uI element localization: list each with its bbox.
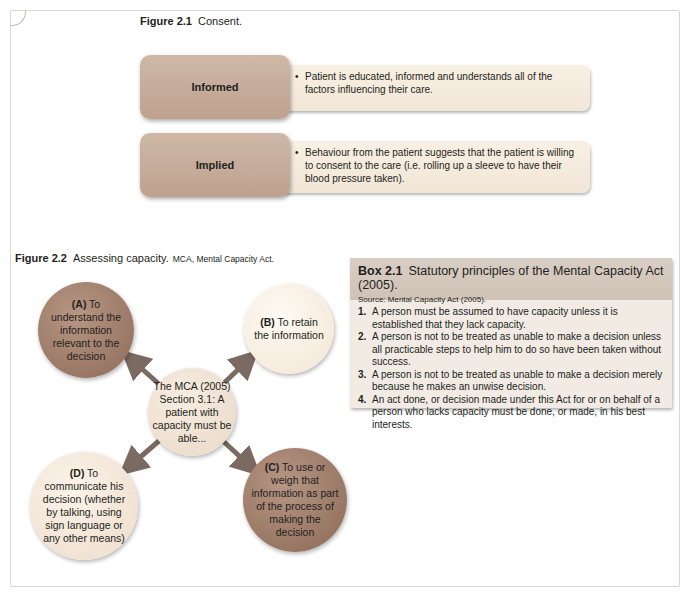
item-text: A person must be assumed to have capacit…	[372, 306, 664, 331]
box-2-1: Box 2.1Statutory principles of the Menta…	[350, 258, 672, 408]
list-item: 1.A person must be assumed to have capac…	[358, 306, 664, 331]
item-number: 2.	[358, 331, 372, 369]
node-letter: (D)	[70, 467, 85, 479]
item-text: A person is not to be treated as unable …	[372, 331, 664, 369]
box-number: Box 2.1	[358, 264, 402, 278]
node-letter: (B)	[260, 316, 275, 328]
box-header: Box 2.1Statutory principles of the Menta…	[350, 258, 672, 300]
item-text: A person is not to be treated as unable …	[372, 369, 664, 394]
node-b-retain: (B) To retain the information	[244, 284, 334, 374]
item-number: 3.	[358, 369, 372, 394]
node-c-weigh: (C) To use or weigh that information as …	[243, 448, 347, 552]
node-letter: (C)	[265, 461, 280, 473]
node-text: To understand the information relevant t…	[51, 298, 121, 362]
item-number: 4.	[358, 394, 372, 432]
item-text: An act done, or decision made under this…	[372, 394, 664, 432]
principles-list: 1.A person must be assumed to have capac…	[350, 300, 672, 431]
list-item: 4.An act done, or decision made under th…	[358, 394, 664, 432]
box-title-text: Statutory principles of the Mental Capac…	[358, 264, 663, 292]
center-text: The MCA (2005) Section 3.1: A patient wi…	[152, 380, 232, 445]
node-center-mca: The MCA (2005) Section 3.1: A patient wi…	[148, 368, 236, 456]
node-text: To communicate his decision (whether by …	[43, 467, 125, 544]
box-title: Box 2.1Statutory principles of the Menta…	[358, 264, 664, 292]
list-item: 2.A person is not to be treated as unabl…	[358, 331, 664, 369]
item-number: 1.	[358, 306, 372, 331]
node-d-communicate: (D) To communicate his decision (whether…	[30, 452, 138, 560]
node-a-understand: (A) To understand the information releva…	[38, 282, 134, 378]
list-item: 3.A person is not to be treated as unabl…	[358, 369, 664, 394]
node-letter: (A)	[72, 298, 87, 310]
